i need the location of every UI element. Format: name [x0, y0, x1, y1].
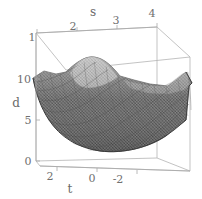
s-tick-label-1: 1: [29, 31, 36, 44]
t-tick-label-2: 2: [47, 170, 54, 183]
surface-shading-overlay: [33, 57, 192, 152]
d-axis-label: d: [12, 96, 20, 110]
box-top-back-right-edge: [157, 27, 190, 57]
t-axis-label: t: [68, 182, 73, 196]
t-tick-label-0: 0: [89, 172, 96, 185]
box-bottom-back-left-edge: [36, 158, 157, 161]
t-axis-line: [40, 166, 190, 171]
surface-plot-figure: 1 2 3 4 s 10 5 0 d 2 0 -2 t: [0, 0, 202, 199]
s-axis-label: s: [90, 5, 96, 19]
s-axis: 1 2 3 4 s: [29, 5, 158, 44]
box-bottom-front-left-edge: [36, 161, 40, 166]
s-tick-label-4: 4: [149, 7, 156, 20]
s-tick-label-2: 2: [70, 20, 77, 33]
s-tick-label-3: 3: [113, 14, 120, 27]
d-tick-label-10: 10: [17, 73, 31, 86]
d-tick-label-5: 5: [25, 114, 32, 127]
d-axis: 10 5 0 d: [12, 33, 40, 168]
t-tick-label-neg2: -2: [113, 173, 124, 186]
box-top-front-left-edge: [36, 33, 66, 70]
box-bottom-back-right-edge: [157, 158, 190, 171]
t-axis: 2 0 -2 t: [40, 166, 190, 196]
d-tick-label-0: 0: [25, 155, 32, 168]
plot-canvas: 1 2 3 4 s 10 5 0 d 2 0 -2 t: [0, 0, 202, 199]
s-axis-line: [36, 27, 157, 33]
surface-mesh: [33, 57, 192, 152]
